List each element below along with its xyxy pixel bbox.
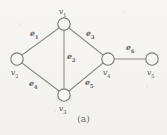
edge-label-e2: e2 [67,53,75,63]
graph-vertex-v4 [102,53,114,65]
vertex-label-v1: v1 [59,8,66,18]
graph-vertex-v5 [146,53,158,65]
vertex-label-v5: v5 [147,69,154,79]
graph-vertex-v2 [11,53,23,65]
edge-label-e1: e1 [30,30,38,40]
vertex-label-v2: v2 [11,69,18,79]
graph-edge-e4 [22,63,59,91]
edge-label-e3: e3 [86,30,94,40]
graph-vertex-v1 [58,18,70,30]
graph-edge-e1 [22,28,59,55]
edge-label-e5: e5 [85,79,93,89]
edge-label-e4: e4 [29,80,37,90]
graph-figure: e1e2e3e4e5e6v1v2v3v4v5 (a) [0,0,167,135]
graph-vertex-v3 [58,89,70,101]
edge-label-e6: e6 [126,44,134,54]
vertex-label-v4: v4 [103,69,110,79]
figure-caption: (a) [0,114,167,124]
edges-group [22,28,146,91]
